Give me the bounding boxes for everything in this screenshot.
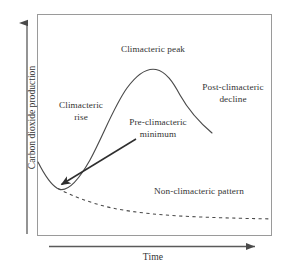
- annotation-post-climacteric-decline: Post-climacteric decline: [190, 82, 276, 105]
- annotation-climacteric-rise: Climacteric rise: [42, 100, 120, 123]
- climacteric-respiration-figure: Climacteric peak Post-climacteric declin…: [0, 0, 284, 274]
- y-axis-label: Carbon dioxide production: [26, 23, 37, 213]
- annotation-pre-climacteric-minimum: Pre-climacteric minimum: [116, 117, 200, 140]
- x-axis-label: Time: [118, 251, 188, 263]
- minimum-annotation-arrow: [62, 139, 137, 185]
- annotation-climacteric-peak: Climacteric peak: [104, 44, 202, 56]
- annotation-non-climacteric-pattern: Non-climacteric pattern: [140, 186, 258, 198]
